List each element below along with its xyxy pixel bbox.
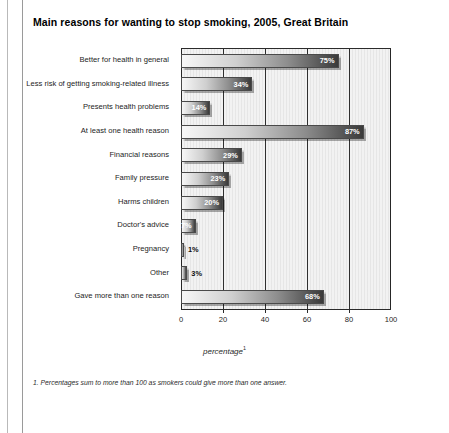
category-label-row: Financial reasons: [0, 143, 175, 167]
bar-value-label: 3%: [191, 270, 202, 277]
bar-row: 20%: [181, 191, 391, 215]
bar: [181, 243, 184, 257]
bar: 7%: [181, 219, 196, 233]
category-label: Better for health in general: [80, 56, 170, 64]
x-axis-tick-labels: 020406080100: [181, 316, 391, 330]
bar: 29%: [181, 148, 242, 162]
category-label: Gave more than one reason: [74, 292, 169, 300]
bar: 68%: [181, 290, 324, 304]
category-label: Family pressure: [115, 174, 169, 182]
category-label-row: Less risk of getting smoking-related ill…: [0, 72, 175, 96]
category-label: Pregnancy: [133, 245, 169, 253]
category-label-row: Doctor's advice: [0, 213, 175, 237]
bar: 75%: [181, 54, 339, 68]
x-axis-line: [181, 309, 391, 310]
category-label: Less risk of getting smoking-related ill…: [26, 80, 169, 88]
category-axis-labels: Better for health in generalLess risk of…: [0, 48, 175, 308]
x-tick-label: 20: [219, 316, 227, 324]
x-tick-mark: [223, 309, 224, 313]
bar: 34%: [181, 77, 252, 91]
x-axis-title-text: percentage: [203, 347, 243, 356]
bar: 23%: [181, 172, 229, 186]
bar-row: 23%: [181, 167, 391, 191]
x-tick-label: 80: [345, 316, 353, 324]
x-axis-title: percentage1: [0, 345, 449, 356]
category-label: Other: [150, 269, 169, 277]
category-label: Presents health problems: [83, 103, 169, 111]
bar: 87%: [181, 125, 364, 139]
category-label-row: Pregnancy: [0, 237, 175, 261]
bar: [181, 266, 187, 280]
bar-row: 7%: [181, 214, 391, 238]
plot-area: 75%34%14%87%29%23%20%7%1%3%68%: [181, 48, 391, 310]
x-axis-title-footnote-marker: 1: [243, 345, 246, 351]
bar-row: 68%: [181, 285, 391, 309]
bar-row: 29%: [181, 144, 391, 168]
bar-row: 87%: [181, 120, 391, 144]
chart-title: Main reasons for wanting to stop smoking…: [33, 16, 348, 28]
bar-series: 75%34%14%87%29%23%20%7%1%3%68%: [181, 49, 391, 309]
bar-value-label: 1%: [188, 246, 199, 253]
category-label: At least one health reason: [81, 127, 169, 135]
bar-value-label: 68%: [305, 293, 323, 300]
bar-value-label: 20%: [204, 199, 222, 206]
category-label: Financial reasons: [109, 151, 169, 159]
x-tick-label: 100: [385, 316, 398, 324]
category-label-row: Gave more than one reason: [0, 284, 175, 308]
bar-row: 3%: [181, 262, 391, 286]
bar-row: 34%: [181, 73, 391, 97]
bar-value-label: 75%: [320, 57, 338, 64]
bar-value-label: 7%: [181, 222, 195, 229]
bar-row: 75%: [181, 49, 391, 73]
x-tick-label: 60: [303, 316, 311, 324]
bar-row: 14%: [181, 96, 391, 120]
x-tick-mark: [349, 309, 350, 313]
x-tick-mark: [265, 309, 266, 313]
chart-footnote: 1. Percentages sum to more than 100 as s…: [33, 379, 287, 386]
category-label: Doctor's advice: [117, 221, 169, 229]
x-tick-mark: [307, 309, 308, 313]
x-tick-label: 0: [179, 316, 183, 324]
x-tick-label: 40: [261, 316, 269, 324]
category-label: Harms children: [118, 198, 169, 206]
bar-value-label: 34%: [234, 81, 252, 88]
category-label-row: Family pressure: [0, 166, 175, 190]
category-label-row: Better for health in general: [0, 48, 175, 72]
bar-value-label: 23%: [211, 175, 229, 182]
bar-row: 1%: [181, 238, 391, 262]
category-label-row: Presents health problems: [0, 95, 175, 119]
bar: 20%: [181, 196, 223, 210]
bar: 14%: [181, 101, 210, 115]
bar-value-label: 14%: [192, 104, 210, 111]
bar-value-label: 29%: [223, 152, 241, 159]
bar-value-label: 87%: [345, 128, 363, 135]
category-label-row: Other: [0, 261, 175, 285]
category-label-row: Harms children: [0, 190, 175, 214]
category-label-row: At least one health reason: [0, 119, 175, 143]
